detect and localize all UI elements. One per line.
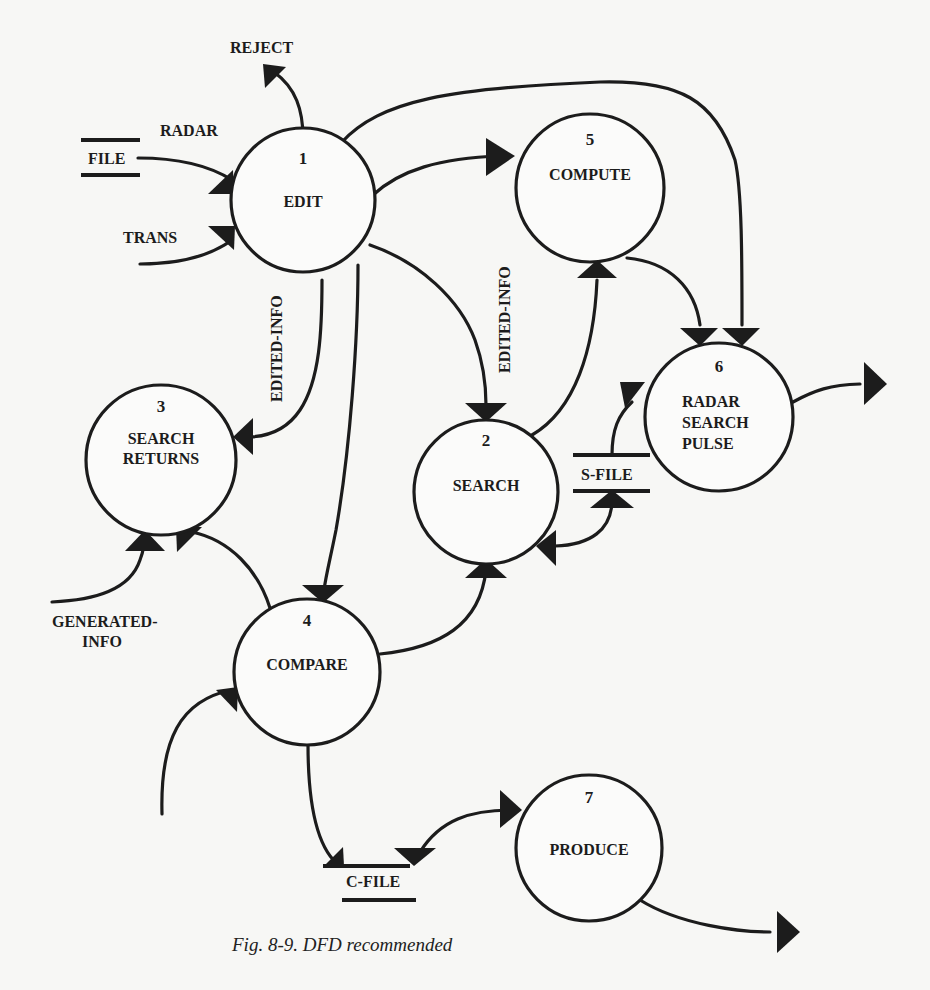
data-store-label: C-FILE [346,873,400,890]
process-4-compare[interactable]: 4 COMPARE [234,599,380,745]
data-store-label: FILE [88,150,125,167]
flow-sfile-to-radar-pulse [612,402,632,455]
process-name-line-2: RETURNS [123,450,200,467]
process-number: 2 [482,431,491,450]
flow-edit-to-compute [373,156,500,195]
flow-generated-info [52,530,145,602]
process-name-line-1: RADAR [682,393,740,410]
arrowhead-to-produce [500,790,522,828]
process-name-line-1: SEARCH [128,430,195,447]
process-3-search-returns[interactable]: 3 SEARCH RETURNS [86,385,236,535]
flow-radar [138,158,232,180]
flow-edit-to-search [370,245,486,405]
flow-compare-to-search-returns [192,532,270,608]
flow-search-to-compute [532,280,597,435]
arrowhead-external-to-compare [216,687,238,712]
arrowhead-produce-out [777,911,800,953]
arrowhead-radar-pulse-out [864,362,887,405]
dfd-diagram: FILE S-FILE C-FILE 1 EDIT 5 COMPUTE 3 SE… [0,0,930,990]
flow-label-reject: REJECT [230,39,293,56]
data-store-radar-file[interactable]: FILE [81,140,140,175]
flow-cfile-produce [420,810,512,852]
process-number: 4 [303,611,312,630]
flow-label-generated-info-line-2: INFO [82,633,122,650]
flow-radar-pulse-out [793,384,860,402]
process-number: 1 [299,149,308,168]
arrowhead-sfile-to-radar-pulse [620,382,645,408]
flow-compare-to-cfile [308,744,340,866]
flow-produce-out [640,900,770,932]
flow-external-to-compare [162,690,232,814]
process-name: PRODUCE [549,841,628,858]
process-name: COMPUTE [549,166,631,183]
process-name: EDIT [283,193,322,210]
process-number: 7 [585,788,594,807]
process-number: 6 [715,357,724,376]
process-6-radar-search-pulse[interactable]: 6 RADAR SEARCH PULSE [645,343,793,491]
process-number: 5 [586,130,595,149]
data-store-c-file[interactable]: C-FILE [323,866,416,900]
arrowhead-cfile-top [394,848,436,866]
process-name: SEARCH [453,477,520,494]
arrowhead-reject [263,64,286,88]
process-1-edit[interactable]: 1 EDIT [231,128,375,272]
process-2-search[interactable]: 2 SEARCH [414,420,558,564]
process-7-produce[interactable]: 7 PRODUCE [516,775,662,921]
figure-caption: Fig. 8-9. DFD recommended [231,934,453,955]
flow-edit-to-compare [324,265,358,590]
process-5-compute[interactable]: 5 COMPUTE [516,114,664,262]
data-store-label: S-FILE [581,466,633,483]
flow-label-radar: RADAR [160,122,218,139]
arrowhead-to-compute [486,138,515,176]
process-name: COMPARE [266,656,347,673]
flow-label-generated-info-line-1: GENERATED- [52,613,158,630]
process-name-line-3: PULSE [682,435,734,452]
flow-compare-to-search [380,570,486,654]
process-number: 3 [157,397,166,416]
flow-label-edited-info-to-search: EDITED-INFO [496,266,513,373]
flow-label-edited-info-to-search-returns: EDITED-INFO [268,295,285,402]
process-name-line-2: SEARCH [682,414,749,431]
data-store-s-file[interactable]: S-FILE [573,455,650,491]
flow-edit-to-search-returns [250,280,322,437]
flow-label-trans: TRANS [123,229,177,246]
flow-compute-to-radar-pulse [627,258,700,325]
